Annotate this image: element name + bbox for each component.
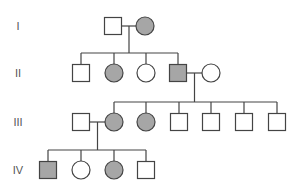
unaffected-male-square-icon xyxy=(203,114,220,131)
generation-label: IV xyxy=(13,164,24,176)
affected-female-circle-icon xyxy=(137,113,155,131)
generation-label: I xyxy=(16,20,19,32)
affected-female-circle-icon xyxy=(136,17,154,35)
generation-label: II xyxy=(15,67,21,79)
unaffected-female-circle-icon xyxy=(202,64,220,82)
affected-female-circle-icon xyxy=(105,64,123,82)
affected-female-circle-icon xyxy=(105,161,123,179)
unaffected-male-square-icon xyxy=(105,18,122,35)
connector-lines xyxy=(48,26,277,162)
affected-female-circle-icon xyxy=(105,113,123,131)
unaffected-male-square-icon xyxy=(138,162,155,179)
affected-male-square-icon xyxy=(170,65,187,82)
unaffected-male-square-icon xyxy=(171,114,188,131)
affected-male-square-icon xyxy=(40,162,57,179)
unaffected-female-circle-icon xyxy=(137,64,155,82)
unaffected-female-circle-icon xyxy=(72,161,90,179)
unaffected-male-square-icon xyxy=(269,114,286,131)
pedigree-chart: IIIIIIIV xyxy=(0,0,303,192)
unaffected-male-square-icon xyxy=(73,65,90,82)
unaffected-male-square-icon xyxy=(73,114,90,131)
generation-label: III xyxy=(13,116,22,128)
unaffected-male-square-icon xyxy=(236,114,253,131)
generation-labels: IIIIIIIV xyxy=(13,20,24,176)
individuals xyxy=(40,17,286,179)
